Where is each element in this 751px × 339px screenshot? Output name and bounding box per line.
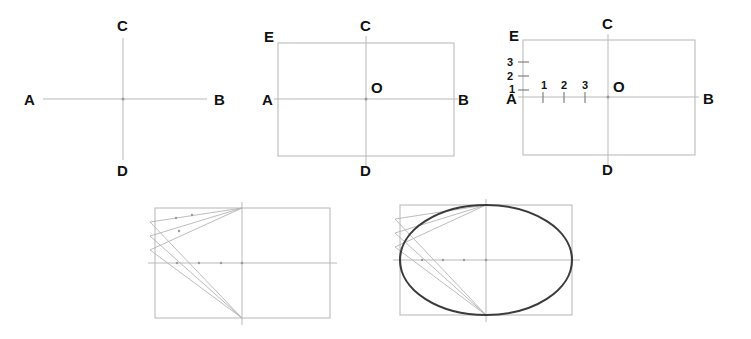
panel4-axis-point-3 (220, 262, 222, 264)
panel1-label-d: D (117, 162, 128, 179)
panel4-axis-point-1 (176, 262, 178, 264)
panel3-label-b: B (703, 90, 714, 107)
panel4-upper-point-1 (191, 214, 193, 216)
panel2-label-b: B (458, 91, 469, 108)
panel3-label-d: D (602, 161, 613, 178)
panel3-label-c: C (602, 15, 613, 32)
panel4-ray-c-to-division-3 (150, 208, 242, 250)
panel1-label-b: B (214, 91, 225, 108)
panel-3-division-step: 3 2 1 1 2 3 A B C D O E (506, 15, 714, 178)
panel-4-construction-rays-step (148, 202, 337, 325)
panel1-label-c: C (117, 17, 128, 34)
panel5-ray-c-to-division-2 (395, 205, 486, 233)
panel4-ray-d-to-division-1 (150, 222, 242, 318)
panel4-ray-c-to-division-2 (150, 208, 242, 236)
panel5-ray-c-to-division-1 (395, 205, 486, 219)
panel3-label-e: E (509, 27, 519, 44)
panel-5-finished-ellipse-step (393, 199, 580, 322)
panel4-ray-c-to-division-1 (150, 208, 242, 222)
panel1-center-point (122, 98, 125, 101)
panel3-vertical-tick-label-3: 3 (507, 56, 513, 68)
panel4-ray-d-to-division-2 (150, 236, 242, 318)
ellipse-construction-figure: A B C D A B C D O E 3 (0, 0, 751, 339)
panel4-upper-point-3 (178, 230, 180, 232)
panel-1-axes-step: A B C D (24, 17, 225, 179)
panel2-label-c: C (360, 17, 371, 34)
panel2-label-o: O (371, 79, 383, 96)
panel5-ray-d-to-division-2 (395, 233, 486, 315)
panel3-label-o: O (613, 78, 625, 95)
panel2-label-a: A (262, 91, 273, 108)
panel4-ray-d-to-division-3 (150, 250, 242, 318)
panel5-ray-c-to-division-3 (395, 205, 486, 247)
panel1-label-a: A (24, 91, 35, 108)
panel2-label-d: D (360, 162, 371, 179)
panel3-center-point-o (607, 96, 610, 99)
panel-2-rectangle-step: A B C D O E (262, 17, 469, 179)
figure-canvas: A B C D A B C D O E 3 (0, 0, 751, 339)
panel4-center-point (241, 262, 244, 265)
panel3-horizontal-tick-label-1: 1 (541, 79, 547, 91)
panel4-axis-point-2 (198, 262, 200, 264)
panel5-axis-point-1 (421, 259, 423, 261)
panel4-upper-point-2 (175, 217, 177, 219)
panel2-label-e: E (264, 28, 274, 45)
panel3-horizontal-tick-label-3: 3 (582, 79, 588, 91)
panel3-label-a: A (506, 90, 517, 107)
panel5-ray-d-to-division-3 (395, 247, 486, 315)
panel5-ray-d-to-division-1 (395, 219, 486, 315)
panel3-horizontal-tick-label-2: 2 (561, 79, 567, 91)
panel5-axis-point-3 (463, 259, 465, 261)
panel5-center-point (485, 259, 488, 262)
panel5-axis-point-2 (442, 259, 444, 261)
panel2-center-point-o (365, 98, 368, 101)
panel3-vertical-tick-label-2: 2 (507, 70, 513, 82)
